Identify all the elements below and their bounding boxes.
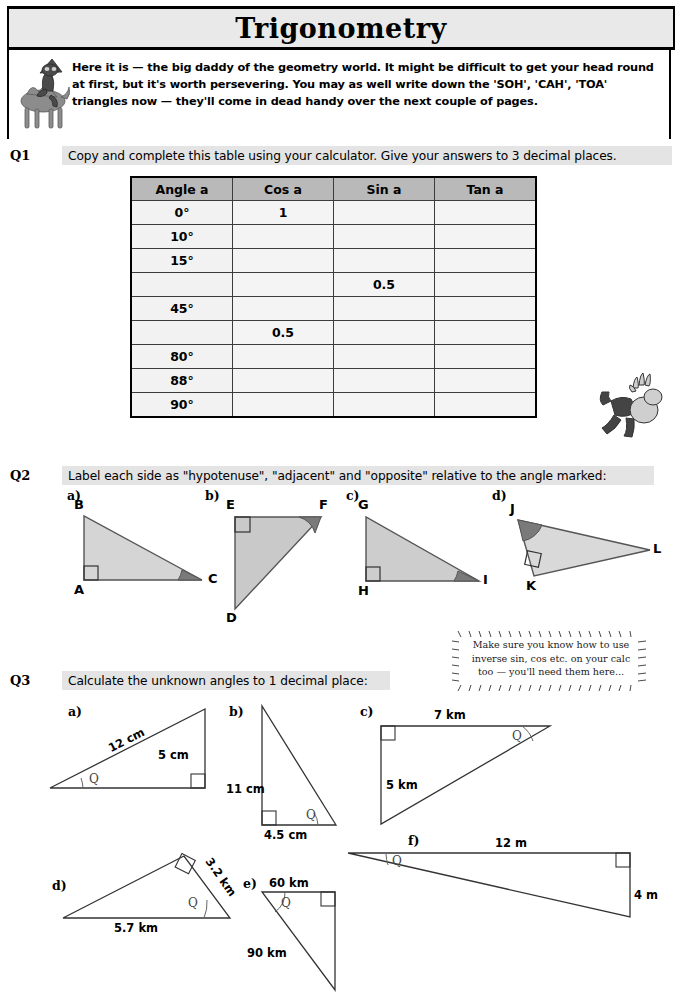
table-cell-cos[interactable] bbox=[233, 345, 334, 369]
table-header-cell: Sin a bbox=[334, 177, 435, 201]
table-row: 90° bbox=[131, 393, 536, 418]
q3-number: Q3 bbox=[10, 673, 30, 688]
table-row: 0.5 bbox=[131, 321, 536, 345]
q2-vertex-E: E bbox=[226, 497, 235, 512]
table-cell-angle[interactable] bbox=[131, 321, 233, 345]
table-cell-cos[interactable] bbox=[233, 393, 334, 418]
table-cell-sin[interactable] bbox=[334, 201, 435, 225]
q2-vertex-B: B bbox=[74, 497, 84, 512]
table-cell-sin[interactable] bbox=[334, 369, 435, 393]
table-row: 88° bbox=[131, 369, 536, 393]
q3-note-text: Make sure you know how to use inverse si… bbox=[465, 638, 637, 679]
table-cell-angle[interactable]: 45° bbox=[131, 297, 233, 321]
table-cell-angle[interactable] bbox=[131, 273, 233, 297]
q3-dim-d-hyp: 5.7 km bbox=[114, 921, 158, 935]
q2-number: Q2 bbox=[10, 468, 30, 483]
q3-instruction: Calculate the unknown angles to 1 decima… bbox=[62, 671, 390, 690]
q2-vertex-G: G bbox=[358, 497, 369, 512]
table-cell-sin[interactable] bbox=[334, 249, 435, 273]
worksheet-page: Trigonometry He bbox=[0, 0, 678, 999]
table-cell-cos[interactable]: 1 bbox=[233, 201, 334, 225]
table-cell-cos[interactable]: 0.5 bbox=[233, 321, 334, 345]
q3-dim-e-adj: 60 km bbox=[269, 876, 309, 890]
table-cell-tan[interactable] bbox=[435, 297, 537, 321]
q3-theta-d: Q bbox=[188, 896, 198, 910]
intro-block: Here it is — the big daddy of the geomet… bbox=[7, 47, 671, 137]
table-cell-angle[interactable]: 0° bbox=[131, 201, 233, 225]
q1-number: Q1 bbox=[10, 148, 30, 163]
camel-rider-icon bbox=[13, 51, 75, 133]
q2-vertex-A: A bbox=[74, 582, 84, 597]
q3-dim-f-opp: 4 m bbox=[634, 888, 658, 902]
table-row: 0°1 bbox=[131, 201, 536, 225]
q2-vertex-K: K bbox=[526, 578, 536, 593]
table-cell-tan[interactable] bbox=[435, 201, 537, 225]
q3-theta-c: Q bbox=[512, 729, 522, 743]
q2-vertex-F: F bbox=[319, 497, 328, 512]
table-cell-tan[interactable] bbox=[435, 225, 537, 249]
table-cell-angle[interactable]: 90° bbox=[131, 393, 233, 418]
table-cell-sin[interactable] bbox=[334, 321, 435, 345]
table-cell-sin[interactable] bbox=[334, 345, 435, 369]
table-cell-angle[interactable]: 80° bbox=[131, 345, 233, 369]
table-cell-cos[interactable] bbox=[233, 249, 334, 273]
table-cell-angle[interactable]: 10° bbox=[131, 225, 233, 249]
q2-instruction: Label each side as "hypotenuse", "adjace… bbox=[62, 466, 654, 485]
table-row: 15° bbox=[131, 249, 536, 273]
trig-table: Angle a Cos a Sin a Tan a 0°1 10° 15° 0.… bbox=[130, 176, 537, 418]
table-cell-cos[interactable] bbox=[233, 225, 334, 249]
table-header-row: Angle a Cos a Sin a Tan a bbox=[131, 177, 536, 201]
q3-dim-f-adj: 12 m bbox=[495, 836, 527, 850]
table-cell-angle[interactable]: 88° bbox=[131, 369, 233, 393]
q3-dim-c-opp: 5 km bbox=[386, 778, 418, 792]
table-cell-sin[interactable] bbox=[334, 297, 435, 321]
intro-text: Here it is — the big daddy of the geomet… bbox=[72, 59, 662, 110]
table-cell-tan[interactable] bbox=[435, 321, 537, 345]
q3-theta-e: Q bbox=[281, 896, 291, 910]
table-cell-sin[interactable]: 0.5 bbox=[334, 273, 435, 297]
table-cell-cos[interactable] bbox=[233, 273, 334, 297]
table-cell-tan[interactable] bbox=[435, 249, 537, 273]
q3-dim-e-hyp: 90 km bbox=[247, 946, 287, 960]
page-title-bar: Trigonometry bbox=[7, 6, 675, 50]
table-row: 10° bbox=[131, 225, 536, 249]
table-header-cell: Tan a bbox=[435, 177, 537, 201]
table-header-cell: Angle a bbox=[131, 177, 233, 201]
table-cell-sin[interactable] bbox=[334, 393, 435, 418]
table-cell-cos[interactable] bbox=[233, 297, 334, 321]
table-header-cell: Cos a bbox=[233, 177, 334, 201]
page-title: Trigonometry bbox=[235, 13, 446, 44]
q1-instruction: Copy and complete this table using your … bbox=[62, 146, 672, 165]
table-row: 80° bbox=[131, 345, 536, 369]
q3-theta-b: Q bbox=[306, 808, 316, 822]
table-cell-angle[interactable]: 15° bbox=[131, 249, 233, 273]
table-cell-cos[interactable] bbox=[233, 369, 334, 393]
q2-vertex-L: L bbox=[653, 541, 661, 556]
tumbling-man-icon bbox=[596, 370, 674, 438]
q3-note-bubble: Make sure you know how to use inverse si… bbox=[447, 630, 652, 692]
table-cell-tan[interactable] bbox=[435, 273, 537, 297]
table-cell-tan[interactable] bbox=[435, 369, 537, 393]
q2-vertex-H: H bbox=[358, 583, 369, 598]
table-row: 0.5 bbox=[131, 273, 536, 297]
q2-vertex-D: D bbox=[226, 610, 237, 625]
table-cell-tan[interactable] bbox=[435, 393, 537, 418]
table-row: 45° bbox=[131, 297, 536, 321]
q3-dim-b-adj: 4.5 cm bbox=[264, 828, 307, 842]
table-cell-sin[interactable] bbox=[334, 225, 435, 249]
q3-dim-a-opp: 5 cm bbox=[158, 748, 189, 762]
q3-theta-a: Q bbox=[89, 772, 99, 786]
q3-dim-b-opp: 11 cm bbox=[226, 782, 265, 796]
q2-vertex-J: J bbox=[510, 501, 515, 516]
q3-theta-f: Q bbox=[392, 854, 402, 868]
q2-vertex-I: I bbox=[483, 572, 488, 587]
q3-dim-c-adj: 7 km bbox=[434, 708, 466, 722]
table-cell-tan[interactable] bbox=[435, 345, 537, 369]
